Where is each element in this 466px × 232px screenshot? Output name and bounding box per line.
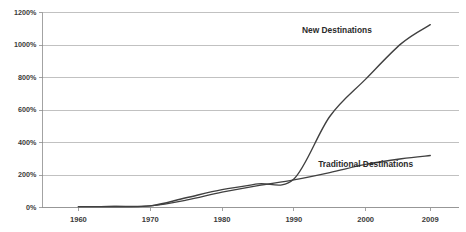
y-axis-tick-labels: 0%200%400%600%800%1000%1200% — [14, 8, 37, 212]
x-axis-tick-labels: 196019701980199020002009 — [70, 215, 439, 224]
series-label: Traditional Destinations — [318, 159, 413, 169]
y-axis-tick-label: 400% — [18, 138, 37, 147]
chart-container: 0%200%400%600%800%1000%1200% 19601970198… — [0, 0, 466, 232]
x-axis-tick-label: 1970 — [142, 215, 159, 224]
y-axis-tick-label: 1200% — [14, 8, 37, 17]
x-axis-tick-label: 2000 — [357, 215, 374, 224]
series-line — [78, 25, 430, 207]
y-axis-tick-label: 1000% — [14, 40, 37, 49]
x-axis-tick-label: 1960 — [70, 215, 87, 224]
gridlines — [43, 13, 460, 208]
x-axis-tick-label: 1980 — [214, 215, 231, 224]
x-axis-tick-label: 1990 — [285, 215, 302, 224]
y-axis-tick-label: 600% — [18, 105, 37, 114]
data-series — [78, 25, 430, 207]
y-axis-tick-label: 0% — [26, 203, 37, 212]
x-axis-tick-label: 2009 — [422, 215, 439, 224]
y-axis-tick-label: 200% — [18, 170, 37, 179]
series-label: New Destinations — [302, 25, 372, 35]
line-chart: 0%200%400%600%800%1000%1200% 19601970198… — [0, 0, 466, 232]
series-annotations: New DestinationsTraditional Destinations — [302, 25, 413, 169]
axes — [39, 13, 459, 211]
y-axis-tick-label: 800% — [18, 73, 37, 82]
